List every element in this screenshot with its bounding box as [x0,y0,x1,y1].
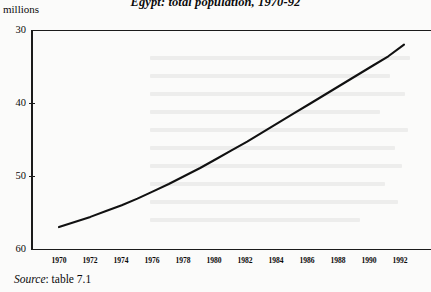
source-label: Source [14,273,46,285]
axis-line-bottom [31,249,431,251]
figure-container: Egypt: total population, 1970-92 million… [0,0,431,292]
source-value: table 7.1 [52,273,92,285]
y-axis-unit-label: millions [3,3,39,15]
y-tick-label-50: 40 [2,97,26,108]
x-tick-label-1992: 1992 [380,256,420,265]
chart-title: Egypt: total population, 1970-92 [0,0,431,10]
y-tick-label-30: 60 [2,243,26,254]
y-tick-label-40: 50 [2,170,26,181]
axis-line-top [31,30,431,31]
y-tick-label-60: 30 [2,24,26,35]
y-tick-mark-40 [29,176,35,177]
population-line-path [59,45,404,228]
y-tick-mark-50 [29,103,35,104]
source-separator: : [46,273,49,285]
source-note: Source: table 7.1 [14,273,91,285]
axis-line-left [31,30,33,250]
